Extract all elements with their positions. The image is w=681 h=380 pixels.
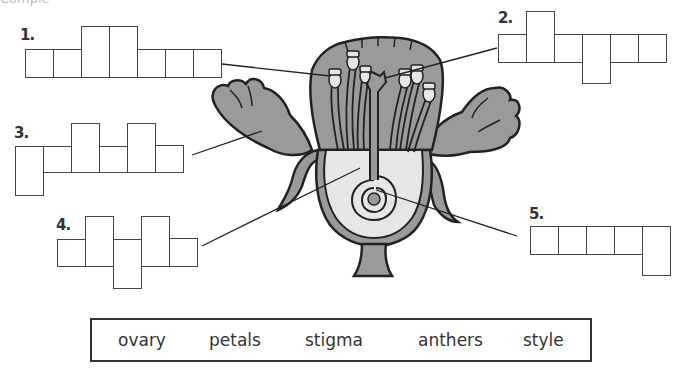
letter-box[interactable] [526,11,555,63]
letter-box[interactable] [610,34,639,63]
letter-box[interactable] [53,49,82,78]
letter-box[interactable] [193,49,222,78]
stem [354,244,392,276]
letter-box[interactable] [25,49,54,78]
letter-box[interactable] [614,226,643,255]
letter-box[interactable] [530,226,559,255]
word-bank: ovary petals stigma anthers style [90,318,592,362]
letter-box[interactable] [85,216,114,267]
word-petals: petals [209,330,261,350]
letter-box[interactable] [638,34,667,63]
puzzle-number: 4. [56,216,70,234]
letter-box[interactable] [558,226,587,255]
letter-box[interactable] [169,238,198,267]
letter-box[interactable] [586,226,615,255]
word-ovary: ovary [118,330,166,350]
letter-box[interactable] [15,146,44,196]
letter-box[interactable] [137,49,166,78]
puzzle-number: 3. [14,124,28,142]
letter-box[interactable] [57,239,86,267]
letter-box[interactable] [81,26,110,78]
letter-box[interactable] [642,226,671,276]
letter-box[interactable] [165,49,194,78]
left-sepal [278,150,320,210]
puzzle-number: 5. [529,205,543,223]
letter-box[interactable] [582,34,611,84]
letter-box[interactable] [127,123,156,173]
letter-box[interactable] [554,34,583,63]
word-stigma: stigma [305,330,363,350]
word-anthers: anthers [418,330,483,350]
puzzle-number: 1. [20,26,34,44]
letter-box[interactable] [43,146,72,173]
letter-box[interactable] [109,26,138,78]
puzzle-number: 2. [498,9,512,27]
letter-box[interactable] [113,239,142,289]
letter-box[interactable] [498,34,527,63]
word-style: style [523,330,564,350]
letter-box[interactable] [99,146,128,173]
letter-box[interactable] [71,123,100,173]
letter-box[interactable] [155,145,184,173]
letter-box[interactable] [141,216,170,267]
left-petal [213,79,312,155]
